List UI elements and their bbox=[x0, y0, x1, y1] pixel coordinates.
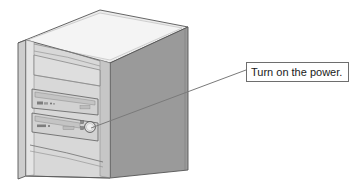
bezel-right-rail bbox=[100, 60, 110, 178]
floppy-drive-icon bbox=[37, 125, 46, 128]
callout-text: Turn on the power. bbox=[251, 66, 342, 78]
left-side-edge bbox=[18, 40, 26, 179]
floppy-drive-led bbox=[48, 125, 50, 127]
led-indicator-lower bbox=[81, 127, 84, 130]
optical-drive-led-2 bbox=[53, 103, 55, 105]
callout-box: Turn on the power. bbox=[246, 62, 349, 82]
optical-drive-led bbox=[50, 103, 52, 105]
optical-drive-indicator bbox=[44, 102, 48, 104]
floppy-drive-eject-button bbox=[63, 127, 74, 130]
optical-drive-eject-button bbox=[80, 106, 90, 109]
optical-drive-icon bbox=[37, 102, 43, 105]
led-indicator-upper bbox=[81, 121, 84, 124]
illustration-screenshot: Turn on the power. bbox=[0, 0, 361, 183]
computer-tower-illustration bbox=[0, 0, 361, 183]
